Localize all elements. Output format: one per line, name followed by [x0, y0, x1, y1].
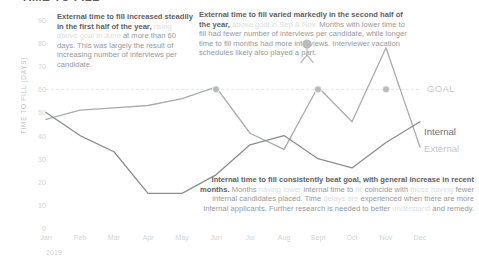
goal-crossing-marker — [212, 86, 219, 93]
annotation-external-first-half: External time to fill increased steadily… — [57, 12, 193, 70]
chart-page: TIME TO FILL TIME TO FILL (DAYS) 9080706… — [0, 0, 479, 267]
legend-label-internal: Internal — [424, 126, 456, 137]
legend-label-goal: GOAL — [427, 83, 455, 94]
annotation-2-faint: above goal in Sep & Nov. — [230, 20, 317, 29]
annotation-3-faint-c: those having — [408, 185, 453, 194]
annotation-3-faint-e: understand — [390, 204, 430, 213]
annotation-1-strong: External time to fill increased steadily… — [57, 12, 193, 31]
annotation-3-mid-a: Months — [230, 185, 257, 194]
annotation-internal-summary: Internal time to fill consistently beat … — [196, 175, 474, 213]
legend-label-external: External — [424, 143, 459, 154]
goal-crossing-marker — [382, 86, 389, 93]
annotation-3-faint-d: delays are — [321, 194, 358, 203]
goal-crossing-marker — [314, 86, 321, 93]
annotation-3-mid-c: coincide with — [363, 185, 409, 194]
annotation-3-faint-b: fill — [353, 185, 362, 194]
person-icon — [296, 38, 318, 64]
annotation-3-mid-f: and remedy. — [430, 204, 474, 213]
annotation-3-faint-a: having lower — [257, 185, 302, 194]
annotation-3-mid-b: internal time to — [301, 185, 353, 194]
